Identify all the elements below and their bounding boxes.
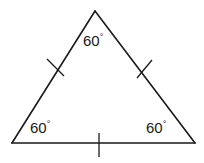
side-left: [12, 11, 95, 143]
angle-label-bottom-left: 60°: [30, 119, 51, 136]
angle-label-top: 60°: [83, 32, 104, 49]
angle-labels: 60° 60° 60°: [30, 32, 167, 136]
angle-label-bottom-right: 60°: [146, 119, 167, 136]
side-right: [95, 11, 195, 143]
equilateral-triangle-diagram: 60° 60° 60°: [0, 0, 204, 163]
